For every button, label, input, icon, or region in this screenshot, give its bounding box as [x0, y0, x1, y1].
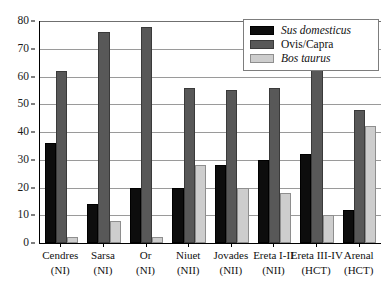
bar-group — [87, 21, 121, 243]
legend-label: Sus domesticus — [281, 25, 351, 37]
y-axis: 01020304050607080 — [0, 21, 35, 243]
y-tick-label: 40 — [18, 126, 30, 138]
y-tick-mark — [31, 48, 35, 49]
bar — [354, 110, 365, 243]
x-tick-label: Arenal(HCT) — [333, 248, 384, 278]
bar — [110, 221, 121, 243]
legend: Sus domesticusOvis/CapraBos taurus — [243, 19, 379, 71]
bar — [237, 188, 248, 244]
x-tick-mark — [188, 243, 189, 247]
y-tick-mark — [31, 215, 35, 216]
bar — [45, 143, 56, 243]
legend-label: Bos taurus — [281, 53, 331, 65]
y-tick-mark — [31, 159, 35, 160]
x-tick-mark — [103, 243, 104, 247]
bar — [311, 65, 322, 243]
x-tick-mark — [273, 243, 274, 247]
legend-item: Bos taurus — [250, 52, 372, 65]
legend-item: Ovis/Capra — [250, 38, 372, 51]
bar — [300, 154, 311, 243]
x-tick-mark — [316, 243, 317, 247]
bar — [141, 27, 152, 243]
bar — [258, 160, 269, 243]
x-tick-mark — [359, 243, 360, 247]
bar — [365, 126, 376, 243]
legend-swatch-icon — [250, 40, 274, 49]
y-tick-label: 60 — [18, 71, 30, 83]
legend-item: Sus domesticus — [250, 24, 372, 37]
y-tick-mark — [31, 243, 35, 244]
y-tick-mark — [31, 76, 35, 77]
bar — [87, 204, 98, 243]
bar — [184, 88, 195, 243]
bar — [130, 188, 141, 244]
y-tick-mark — [31, 104, 35, 105]
x-tick-mark — [60, 243, 61, 247]
bar — [56, 71, 67, 243]
y-tick-mark — [31, 132, 35, 133]
y-tick-label: 10 — [18, 210, 30, 222]
bar — [280, 193, 291, 243]
y-tick-label: 20 — [18, 182, 30, 194]
y-tick-label: 70 — [18, 43, 30, 55]
x-axis: Cendres(NI)Sarsa(NI)Or(NI)Niuet(NII)Jova… — [39, 248, 380, 282]
bar — [195, 165, 206, 243]
y-tick-label: 30 — [18, 154, 30, 166]
x-tick-mark — [231, 243, 232, 247]
legend-swatch-icon — [250, 26, 274, 35]
bar — [343, 210, 354, 243]
bar-group — [172, 21, 206, 243]
y-tick-label: 50 — [18, 99, 30, 111]
bar-group — [45, 21, 79, 243]
bar-chart: 01020304050607080 Cendres(NI)Sarsa(NI)Or… — [0, 0, 389, 283]
bar — [323, 215, 334, 243]
legend-swatch-icon — [250, 54, 274, 63]
y-tick-mark — [31, 187, 35, 188]
x-tick-mark — [146, 243, 147, 247]
bar — [172, 188, 183, 244]
bar — [269, 88, 280, 243]
y-tick-label: 0 — [23, 237, 29, 249]
y-tick-label: 80 — [18, 15, 30, 27]
bar — [226, 90, 237, 243]
x-tick-label-name: Arenal — [333, 248, 384, 263]
bar — [215, 165, 226, 243]
bar-group — [130, 21, 164, 243]
y-tick-mark — [31, 21, 35, 22]
legend-label: Ovis/Capra — [281, 39, 333, 51]
x-tick-label-period: (HCT) — [333, 263, 384, 278]
bar — [98, 32, 109, 243]
